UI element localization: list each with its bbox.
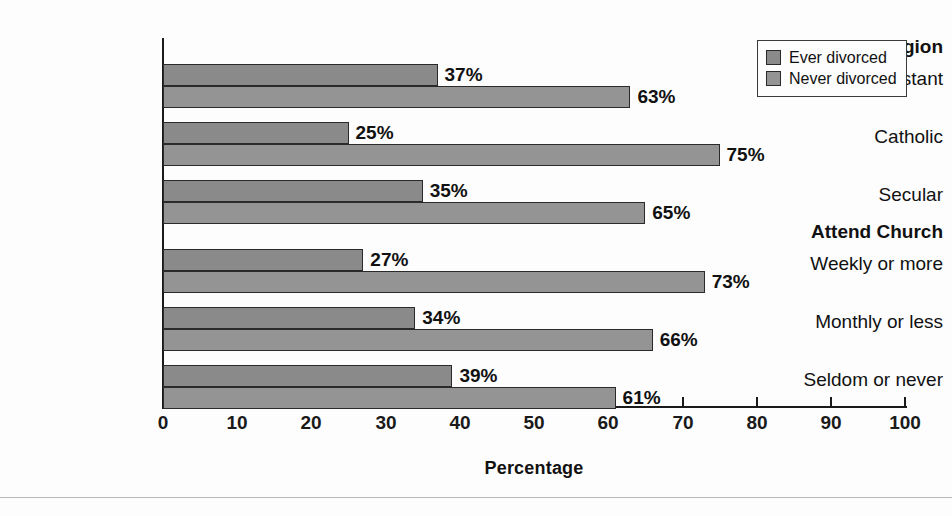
bottom-divider — [0, 497, 952, 498]
x-tick-label-30: 30 — [375, 412, 396, 434]
legend-item-never-divorced[interactable]: Never divorced — [766, 68, 897, 89]
x-tick-label-20: 20 — [300, 412, 321, 434]
legend-label-never-divorced: Never divorced — [789, 70, 897, 88]
x-tick-label-100: 100 — [889, 412, 921, 434]
bar-seldom-never[interactable] — [163, 387, 616, 409]
bar-value-seldom-ever: 39% — [452, 365, 497, 387]
bar-protestant-never[interactable] — [163, 86, 630, 108]
bar-secular-never[interactable] — [163, 202, 645, 224]
legend-swatch-icon-ever-divorced — [766, 50, 781, 65]
x-tick-label-0: 0 — [158, 412, 169, 434]
bar-value-catholic-never: 75% — [720, 144, 765, 166]
x-axis-title: Percentage — [163, 458, 905, 479]
bar-value-protestant-ever: 37% — [438, 64, 483, 86]
bar-value-protestant-never: 63% — [630, 86, 675, 108]
bar-monthly-never[interactable] — [163, 329, 653, 351]
x-tick-label-60: 60 — [597, 412, 618, 434]
x-tick-label-40: 40 — [449, 412, 470, 434]
x-tick-label-90: 90 — [820, 412, 841, 434]
bar-value-weekly-ever: 27% — [363, 249, 408, 271]
chart-legend: Ever divorced Never divorced — [757, 40, 907, 97]
bar-value-secular-never: 65% — [645, 202, 690, 224]
bar-catholic-never[interactable] — [163, 144, 720, 166]
bar-weekly-ever[interactable] — [163, 249, 363, 271]
bar-value-catholic-ever: 25% — [349, 122, 394, 144]
bar-secular-ever[interactable] — [163, 180, 423, 202]
bar-value-seldom-never: 61% — [616, 387, 661, 409]
bar-protestant-ever[interactable] — [163, 64, 438, 86]
bar-catholic-ever[interactable] — [163, 122, 349, 144]
bar-weekly-never[interactable] — [163, 271, 705, 293]
legend-swatch-icon-never-divorced — [766, 71, 781, 86]
bar-seldom-ever[interactable] — [163, 365, 452, 387]
bar-value-weekly-never: 73% — [705, 271, 750, 293]
bar-value-monthly-never: 66% — [653, 329, 698, 351]
x-tick-label-50: 50 — [523, 412, 544, 434]
plot-area: 37% 63% 25% 75% 35% 65% 27% — [163, 46, 905, 407]
x-tick-label-70: 70 — [672, 412, 693, 434]
x-tick-label-80: 80 — [746, 412, 767, 434]
bar-monthly-ever[interactable] — [163, 307, 415, 329]
chart-figure: Religion Protestant Catholic Secular Att… — [0, 0, 952, 516]
bar-value-monthly-ever: 34% — [415, 307, 460, 329]
legend-label-ever-divorced: Ever divorced — [789, 49, 887, 67]
legend-item-ever-divorced[interactable]: Ever divorced — [766, 47, 897, 68]
x-tick-label-10: 10 — [226, 412, 247, 434]
bar-value-secular-ever: 35% — [423, 180, 468, 202]
